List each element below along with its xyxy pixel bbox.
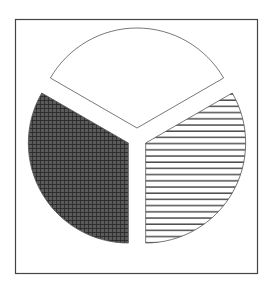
pie-chart xyxy=(0,0,272,291)
slice-crosshatch xyxy=(28,93,128,243)
slice-hatched xyxy=(146,93,246,243)
